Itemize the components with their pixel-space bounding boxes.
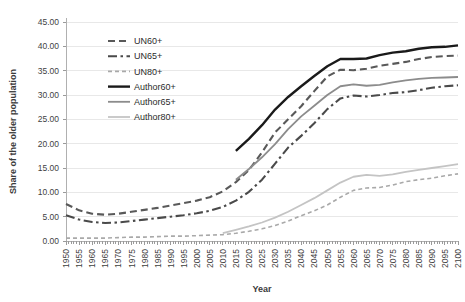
x-tick-label: 2000 xyxy=(192,249,202,268)
x-tick-label: 1980 xyxy=(140,249,150,268)
x-tick-label: 2040 xyxy=(296,249,306,268)
y-tick-label: 20.00 xyxy=(38,139,60,149)
x-tick-label: 1995 xyxy=(179,249,189,268)
x-tick-label: 2070 xyxy=(375,249,385,268)
x-tick-label: 2060 xyxy=(349,249,359,268)
y-axis-title: Share of the older population xyxy=(8,69,18,194)
x-tick-label: 2095 xyxy=(440,249,450,268)
x-tick-label: 2020 xyxy=(244,249,254,268)
x-tick-label: 2005 xyxy=(205,249,215,268)
x-tick-label: 1970 xyxy=(113,249,123,268)
x-tick-label: 2055 xyxy=(336,249,346,268)
x-tick-label: 2025 xyxy=(257,249,267,268)
legend-label-author65plus: Author65+ xyxy=(134,97,176,107)
x-tick-label: 2030 xyxy=(270,249,280,268)
legend-label-un65plus: UN65+ xyxy=(134,51,162,61)
y-tick-label: 15.00 xyxy=(38,163,60,173)
x-tick-label: 2085 xyxy=(414,249,424,268)
y-tick-label: 10.00 xyxy=(38,187,60,197)
y-tick-label: 35.00 xyxy=(38,66,60,76)
x-tick-label: 2010 xyxy=(218,249,228,268)
x-tick-label: 1975 xyxy=(127,249,137,268)
x-tick-label: 2080 xyxy=(401,249,411,268)
x-tick-label: 1950 xyxy=(61,249,71,268)
x-axis-title: Year xyxy=(252,284,272,294)
x-tick-label: 1960 xyxy=(87,249,97,268)
y-tick-label: 45.00 xyxy=(38,17,60,27)
x-tick-label: 2090 xyxy=(427,249,437,268)
legend-label-author60plus: Author60+ xyxy=(134,82,176,92)
legend-label-un60plus: UN60+ xyxy=(134,36,162,46)
x-tick-label: 2075 xyxy=(388,249,398,268)
line-chart: 0.005.0010.0015.0020.0025.0030.0035.0040… xyxy=(0,0,465,302)
x-tick-label: 1990 xyxy=(166,249,176,268)
chart-container: 0.005.0010.0015.0020.0025.0030.0035.0040… xyxy=(0,0,465,302)
x-tick-label: 2065 xyxy=(362,249,372,268)
x-tick-label: 2045 xyxy=(309,249,319,268)
y-tick-label: 30.00 xyxy=(38,90,60,100)
legend-label-author80plus: Author80+ xyxy=(134,112,176,122)
x-tick-label: 1985 xyxy=(153,249,163,268)
x-tick-label: 2100 xyxy=(453,249,463,268)
y-tick-label: 0.00 xyxy=(42,236,59,246)
x-tick-label: 2035 xyxy=(283,249,293,268)
y-tick-label: 25.00 xyxy=(38,114,60,124)
x-tick-label: 1965 xyxy=(100,249,110,268)
y-tick-label: 40.00 xyxy=(38,41,60,51)
x-tick-labels: 1950195519601965197019751980198519901995… xyxy=(61,249,463,268)
y-tick-label: 5.00 xyxy=(42,212,59,222)
legend-label-un80plus: UN80+ xyxy=(134,67,162,77)
x-tick-label: 1955 xyxy=(74,249,84,268)
x-tick-label: 2050 xyxy=(323,249,333,268)
x-tick-label: 2015 xyxy=(231,249,241,268)
